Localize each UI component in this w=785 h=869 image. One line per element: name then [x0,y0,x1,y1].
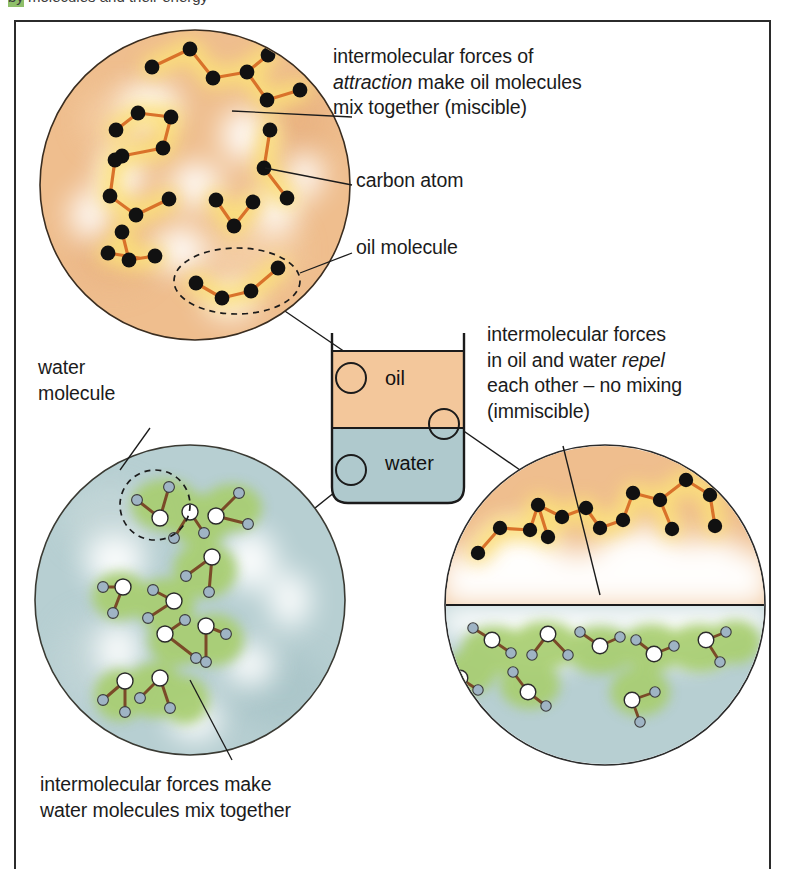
annotation-carbon-atom: carbon atom [356,168,463,194]
annotation-repel-italic: repel [622,349,665,371]
annotation-oil-molecule: oil molecule [356,235,458,261]
figure-page: by molecules and their energy [0,0,785,869]
beaker-label-water: water [385,452,434,475]
oil-zoom-circle [40,30,350,340]
molecular-diagram [0,0,785,869]
annotation-repel: intermolecular forces in oil and water r… [487,322,682,424]
beaker [332,333,464,503]
beaker-label-oil: oil [385,367,405,390]
annotation-attraction: intermolecular forces of attraction make… [333,44,582,121]
annotation-attraction-italic: attraction [333,71,412,93]
annotation-mixing: intermolecular forces make water molecul… [40,772,291,823]
annotation-water-molecule: water molecule [38,355,115,406]
water-zoom-circle [35,445,345,755]
interface-zoom-circle [440,440,770,775]
